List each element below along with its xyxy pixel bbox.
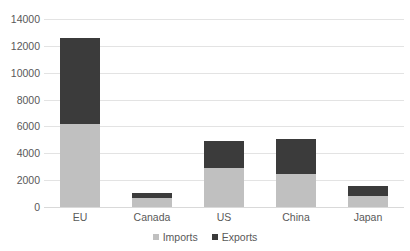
stacked-bar-chart: 02000400060008000100001200014000 EUCanad… [0,0,410,251]
exports-swatch [212,234,218,240]
y-tick-label: 0 [0,202,40,213]
bar-stack[interactable] [276,139,316,207]
bar-segment-imports[interactable] [348,196,388,207]
plot-area [44,19,404,207]
bar-group [60,19,100,207]
bar-segment-imports[interactable] [204,168,244,207]
legend-entry[interactable]: Imports [153,232,198,243]
bar-segment-exports[interactable] [276,139,316,175]
y-tick-label: 8000 [0,94,40,105]
bar-segment-imports[interactable] [132,198,172,207]
bar-group [348,19,388,207]
y-tick-label: 12000 [0,41,40,52]
bar-segment-imports[interactable] [60,124,100,207]
y-tick-label: 4000 [0,148,40,159]
bar-stack[interactable] [204,141,244,207]
y-tick-label: 14000 [0,14,40,25]
legend-entry[interactable]: Exports [212,232,258,243]
legend-label: Imports [163,232,198,243]
y-axis: 02000400060008000100001200014000 [0,0,40,251]
bar-segment-imports[interactable] [276,174,316,207]
chart-legend: ImportsExports [0,232,410,243]
bar-group [204,19,244,207]
bar-stack[interactable] [348,186,388,207]
x-axis: EUCanadaUSChinaJapan [44,210,404,228]
x-tick-label: China [256,210,336,226]
y-tick-label: 2000 [0,175,40,186]
gridline [44,207,404,208]
bar-segment-exports[interactable] [60,38,100,124]
imports-swatch [153,234,159,240]
x-tick-label: Canada [112,210,192,226]
bar-stack[interactable] [60,38,100,207]
y-tick-label: 10000 [0,67,40,78]
bar-segment-exports[interactable] [348,186,388,197]
x-tick-label: US [184,210,264,226]
bar-segment-exports[interactable] [204,141,244,168]
x-tick-label: Japan [328,210,408,226]
x-tick-label: EU [40,210,120,226]
y-tick-label: 6000 [0,121,40,132]
bar-stack[interactable] [132,193,172,207]
bar-group [132,19,172,207]
bar-group [276,19,316,207]
legend-label: Exports [222,232,258,243]
